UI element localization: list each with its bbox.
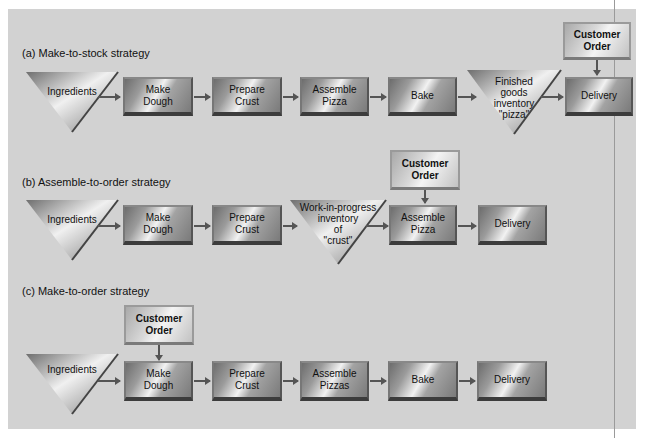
- inventory-triangle-icon: [24, 352, 120, 416]
- flow-arrow: [194, 225, 210, 227]
- page-edge-line: [614, 0, 615, 438]
- order-arrow: [424, 190, 426, 203]
- section-b-title: (b) Assemble-to-order strategy: [22, 176, 171, 188]
- flow-arrow: [194, 96, 210, 98]
- step-assemble-pizzas-c: Assemble Pizzas: [300, 361, 369, 401]
- step-bake-a: Bake: [388, 77, 457, 116]
- step-prepare-crust-a: Prepare Crust: [212, 77, 282, 116]
- customer-order-a: Customer Order: [563, 22, 631, 60]
- ingredients-label: Ingredients: [24, 214, 120, 225]
- step-delivery-b: Delivery: [478, 205, 547, 245]
- flow-arrow: [458, 225, 476, 227]
- flow-arrow: [459, 380, 475, 382]
- section-a-title: (a) Make-to-stock strategy: [22, 47, 150, 59]
- flow-arrow: [541, 96, 563, 98]
- inventory-triangle-icon: [24, 198, 120, 262]
- flow-arrow: [98, 380, 120, 382]
- flow-arrow: [283, 380, 298, 382]
- customer-order-c: Customer Order: [124, 305, 194, 345]
- finished-goods-label: Finished goods inventory "pizza": [465, 76, 563, 120]
- step-make-dough-a: Make Dough: [123, 77, 193, 116]
- finished-goods-inventory: Finished goods inventory "pizza": [465, 68, 563, 136]
- step-make-dough-b: Make Dough: [123, 205, 193, 245]
- inventory-triangle-icon: [24, 70, 120, 134]
- step-delivery-c: Delivery: [477, 361, 547, 401]
- step-delivery-a: Delivery: [565, 77, 633, 116]
- step-assemble-pizza-b: Assemble Pizza: [389, 205, 457, 245]
- flow-arrow: [370, 96, 386, 98]
- flow-arrow: [194, 380, 210, 382]
- wip-label: Work-in-progress inventory of "crust": [288, 202, 388, 246]
- ingredients-inventory-b: Ingredients: [24, 198, 120, 262]
- order-arrow: [158, 345, 160, 360]
- step-prepare-crust-b: Prepare Crust: [212, 205, 282, 245]
- flow-arrow: [366, 225, 388, 227]
- ingredients-inventory-c: Ingredients: [24, 352, 120, 416]
- customer-order-b: Customer Order: [390, 150, 460, 190]
- step-prepare-crust-c: Prepare Crust: [212, 361, 282, 401]
- wip-inventory: Work-in-progress inventory of "crust": [288, 198, 388, 266]
- flow-arrow: [98, 96, 120, 98]
- step-make-dough-c: Make Dough: [124, 361, 193, 401]
- flow-arrow: [283, 96, 298, 98]
- ingredients-label: Ingredients: [24, 364, 120, 375]
- order-arrow: [596, 60, 598, 75]
- section-c-title: (c) Make-to-order strategy: [22, 285, 149, 297]
- ingredients-inventory-a: Ingredients: [24, 70, 120, 134]
- flow-arrow: [98, 225, 120, 227]
- flow-arrow: [370, 380, 386, 382]
- step-assemble-pizza-a: Assemble Pizza: [300, 77, 369, 116]
- step-bake-c: Bake: [388, 361, 458, 401]
